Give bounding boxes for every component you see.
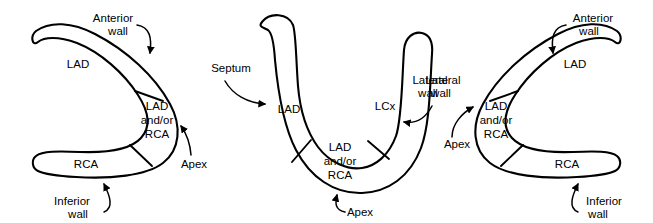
label-apex-left: Apex [181, 158, 207, 170]
label-lad-right: LAD [564, 58, 586, 70]
label-apex-middle: Apex [347, 206, 373, 218]
label-anterior-wall-line2-left: wall [107, 25, 128, 37]
leader-inferior-wall-left [104, 184, 110, 212]
leader-inferior-wall-right [572, 184, 578, 212]
label-apex-seg-lad-middle: LAD [329, 141, 351, 153]
panel-right: LAD LAD and/or RCA RCA Anterior wall Inf… [425, 12, 622, 220]
leader-anterior-wall-left [137, 25, 151, 53]
panel-middle: LAD LCx LAD and/or RCA Septum Lateral wa… [211, 15, 447, 218]
label-septum-middle: Septum [211, 62, 251, 74]
leader-septum-middle [225, 81, 265, 104]
label-apex-seg-andor-middle: and/or [324, 155, 357, 167]
label-apex-seg-rca-left: RCA [145, 128, 170, 140]
label-inferior-wall-line1-right: Inferior [586, 195, 622, 207]
label-apex-seg-rca-right: RCA [484, 128, 509, 140]
label-apex-seg-lad-right: LAD [485, 100, 507, 112]
label-lad-middle: LAD [278, 103, 300, 115]
label-rca-right: RCA [555, 158, 580, 170]
label-anterior-wall-line2-right: wall [578, 25, 599, 37]
label-anterior-wall-line1-right: Anterior [573, 12, 613, 24]
label-apex-right: Apex [444, 138, 470, 150]
label-lateral-wall-line2-right: wall [430, 87, 451, 99]
label-lad-left: LAD [67, 58, 89, 70]
leader-apex-middle [336, 195, 345, 212]
cardiac-territory-diagram: LAD LAD and/or RCA RCA Anterior wall Inf… [0, 0, 653, 223]
label-lcx-middle: LCx [375, 100, 396, 112]
panel-left: LAD LAD and/or RCA RCA Anterior wall Inf… [32, 12, 207, 220]
label-apex-seg-lad-left: LAD [146, 100, 168, 112]
label-apex-seg-rca-middle: RCA [328, 169, 353, 181]
label-inferior-wall-line2-left: wall [67, 208, 88, 220]
label-rca-left: RCA [74, 158, 99, 170]
label-apex-seg-andor-right: and/or [480, 114, 513, 126]
leader-apex-left [181, 126, 191, 155]
label-inferior-wall-line1-left: Inferior [54, 195, 90, 207]
label-inferior-wall-line2-right: wall [587, 208, 608, 220]
divider-right-middle [368, 141, 389, 159]
leader-apex-right [452, 107, 473, 137]
diagram-canvas: LAD LAD and/or RCA RCA Anterior wall Inf… [0, 0, 653, 223]
label-lateral-wall-line1-right: Lateral [425, 74, 460, 86]
label-anterior-wall-line1-left: Anterior [93, 12, 133, 24]
label-apex-seg-andor-left: and/or [141, 114, 174, 126]
